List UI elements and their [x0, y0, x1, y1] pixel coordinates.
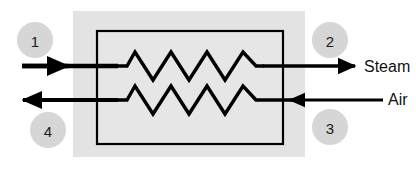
node-4-label: 4 [44, 123, 52, 140]
stream-node-4: 4 [30, 112, 66, 148]
node-3-label: 3 [326, 120, 334, 137]
air-stream-label: Air [388, 91, 408, 108]
stream-node-3: 3 [312, 109, 348, 145]
node-1-label: 1 [31, 33, 39, 50]
diagram-canvas: 1 2 3 4 Steam Air [0, 0, 416, 171]
steam-stream-label: Steam [364, 58, 410, 75]
heat-exchanger-diagram: 1 2 3 4 Steam Air [0, 0, 416, 171]
stream-node-1: 1 [17, 22, 53, 58]
stream-node-2: 2 [312, 22, 348, 58]
exchanger-vessel [97, 31, 283, 144]
node-2-label: 2 [326, 33, 334, 50]
